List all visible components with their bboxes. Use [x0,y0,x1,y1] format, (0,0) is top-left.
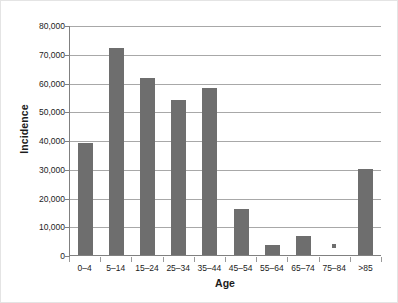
x-tick-label: 15–24 [131,260,162,276]
bar [171,100,186,255]
y-tick-label: 70,000 [39,50,65,60]
bar [140,78,155,255]
bar-slot [101,26,132,255]
bar [358,169,373,255]
x-tick-mark [381,257,382,262]
x-axis-tick-labels: 0–45–1415–2425–3435–4445–5455–6465–7475–… [69,260,381,276]
bar [265,245,280,255]
y-tick-label: 80,000 [39,21,65,31]
bar [78,143,93,255]
y-tick-label: 60,000 [39,79,65,89]
bar-chart-figure: Incidence 010,00020,00030,00040,00050,00… [0,0,398,303]
y-tick-mark [65,26,70,27]
x-tick-label: 35–44 [194,260,225,276]
bar-slot [225,26,256,255]
bar-slot [350,26,381,255]
y-tick-label: 10,000 [39,222,65,232]
y-tick-label: 20,000 [39,194,65,204]
bar-marker [332,244,336,248]
bar-slot [70,26,101,255]
bars-layer [70,26,381,255]
bar [202,88,217,255]
x-axis-title: Age [69,277,381,289]
y-axis-tick-labels: 010,00020,00030,00040,00050,00060,00070,… [29,26,65,256]
bar [296,236,311,255]
y-tick-label: 50,000 [39,107,65,117]
bar-slot [163,26,194,255]
y-tick-mark [65,112,70,113]
bar-slot [132,26,163,255]
y-tick-mark [65,55,70,56]
x-tick-label: 45–54 [225,260,256,276]
x-tick-label: 25–34 [163,260,194,276]
y-tick-mark [65,84,70,85]
plot-area [69,26,381,256]
x-tick-label: 5–14 [100,260,131,276]
bar-slot [194,26,225,255]
x-tick-label: 0–4 [69,260,100,276]
x-tick-label: 55–64 [256,260,287,276]
y-tick-label: 30,000 [39,165,65,175]
bar-slot [257,26,288,255]
y-tick-mark [65,227,70,228]
x-tick-label: 65–74 [287,260,318,276]
bar [234,209,249,255]
y-tick-mark [65,141,70,142]
bar-slot [288,26,319,255]
x-tick-label: >85 [350,260,381,276]
x-tick-label: 75–84 [319,260,350,276]
bar [109,48,124,255]
bar-slot [319,26,350,255]
y-tick-mark [65,199,70,200]
y-tick-label: 40,000 [39,136,65,146]
y-tick-mark [65,170,70,171]
